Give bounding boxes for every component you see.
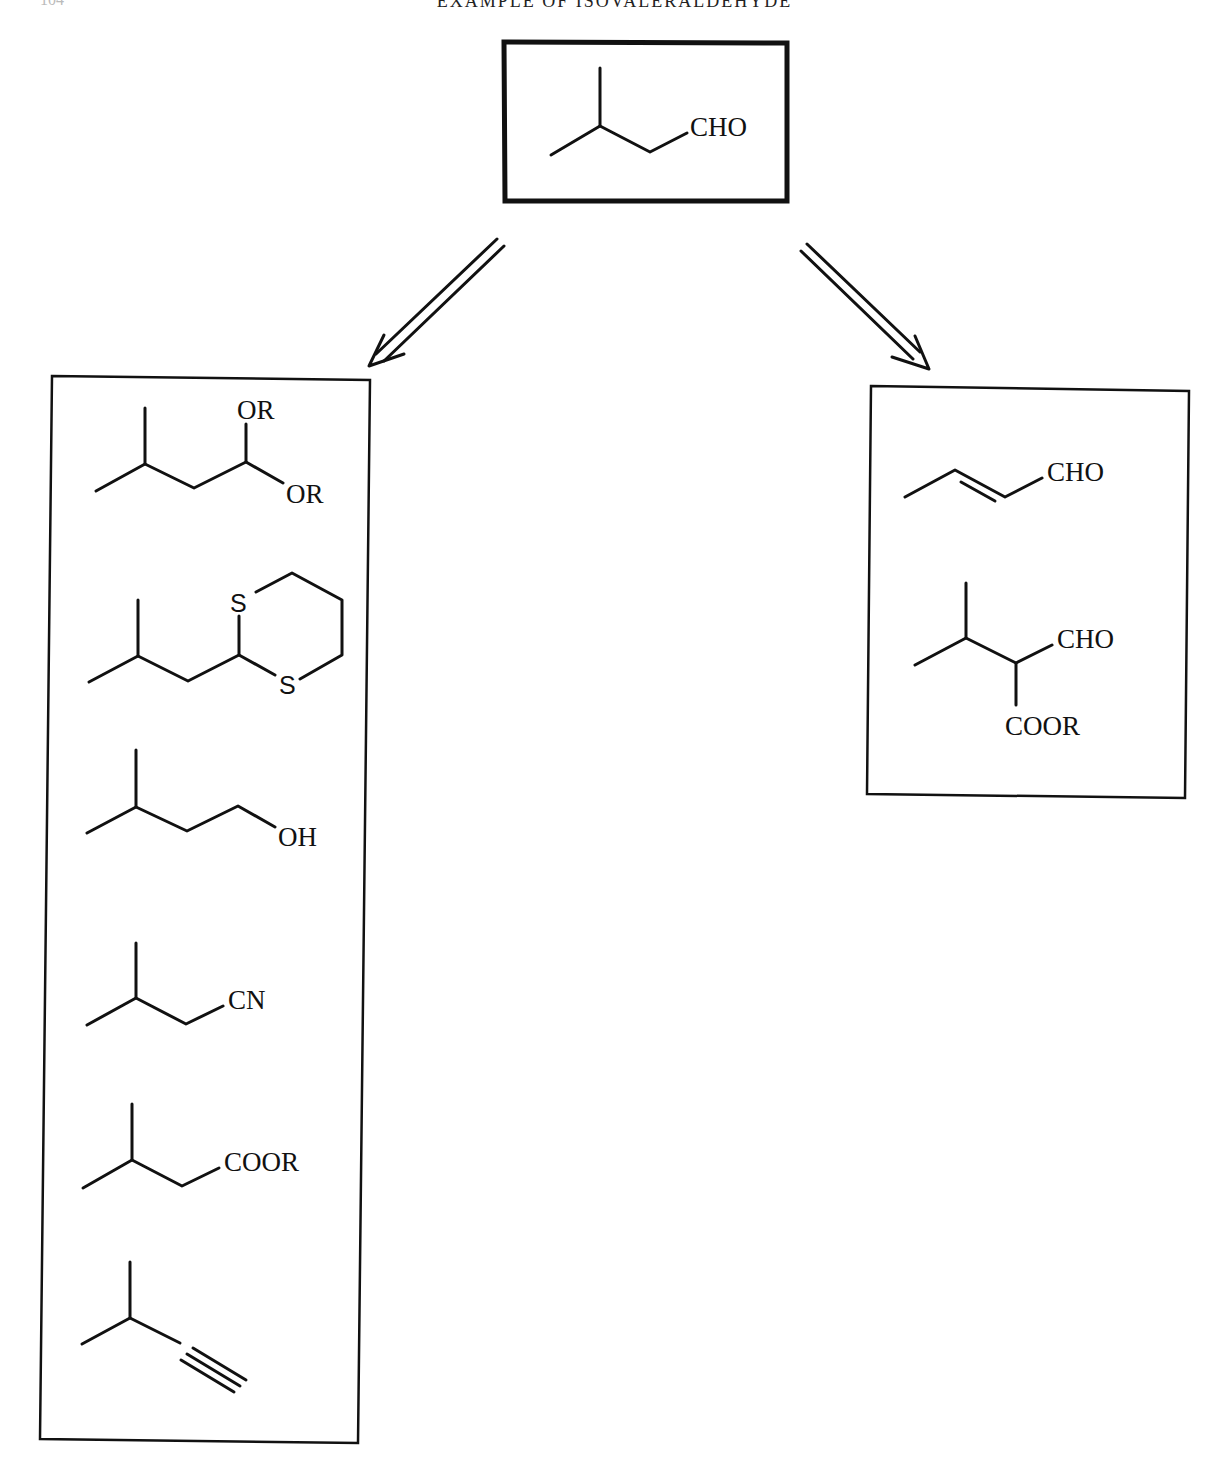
retrosynthesis-diagram: CHO OR OR [0, 0, 1229, 1473]
alcohol-oh-label: OH [278, 822, 317, 852]
target-cho-label: CHO [690, 112, 747, 142]
dithiane-structure: S S [89, 573, 342, 699]
left-box-border [40, 376, 370, 1443]
left-equivalents-box: OR OR S S OH CN [40, 376, 370, 1443]
alcohol-structure: OH [87, 750, 317, 852]
crotonaldehyde-structure: CHO [905, 457, 1104, 501]
acetal-structure: OR OR [96, 395, 324, 509]
diagram-page: 104 EXAMPLE OF ISOVALERALDEHYDE CHO [0, 0, 1229, 1473]
dithiane-s-label-2: S [279, 671, 296, 699]
left-retrosynthetic-arrow-icon [369, 239, 504, 366]
right-retrosynthetic-arrow-icon [801, 244, 929, 369]
ester-coor-label: COOR [224, 1147, 299, 1177]
dithiane-s-label-1: S [230, 589, 247, 617]
formyl-ester-structure: CHO COOR [915, 583, 1114, 741]
formyl-ester-coor-label: COOR [1005, 711, 1080, 741]
target-molecule-box: CHO [504, 42, 787, 201]
acetal-or-label-2: OR [286, 479, 324, 509]
acetal-or-label-1: OR [237, 395, 275, 425]
crotonaldehyde-cho-label: CHO [1047, 457, 1104, 487]
ester-structure: COOR [83, 1104, 299, 1188]
nitrile-cn-label: CN [228, 985, 266, 1015]
formyl-ester-cho-label: CHO [1057, 624, 1114, 654]
target-molecule-isovaleraldehyde: CHO [551, 68, 747, 155]
alkyne-structure [82, 1262, 246, 1392]
right-precursors-box: CHO CHO COOR [867, 386, 1189, 798]
nitrile-structure: CN [87, 943, 266, 1025]
